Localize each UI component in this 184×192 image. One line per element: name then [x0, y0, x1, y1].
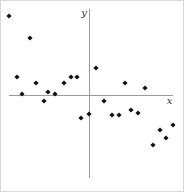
data-point: [6, 13, 11, 18]
data-point: [157, 127, 162, 132]
data-point: [33, 80, 38, 85]
data-point: [101, 98, 106, 103]
data-point: [61, 80, 66, 85]
data-point: [170, 122, 175, 127]
data-point: [27, 35, 32, 40]
data-point: [41, 98, 46, 103]
data-point: [128, 107, 133, 112]
data-point: [93, 65, 98, 70]
data-points-group: [6, 13, 175, 147]
data-point: [74, 74, 79, 79]
data-point: [122, 80, 127, 85]
data-point: [45, 89, 50, 94]
data-point: [86, 111, 91, 116]
scatter-plot-figure: x y: [0, 0, 184, 192]
data-point: [78, 115, 83, 120]
data-point: [109, 112, 114, 117]
data-point: [142, 85, 147, 90]
x-axis-label: x: [167, 95, 173, 106]
data-point: [116, 112, 121, 117]
y-axis-label: y: [80, 7, 87, 18]
scatter-plot-canvas: x y: [1, 1, 184, 192]
data-point: [135, 110, 140, 115]
data-point: [14, 74, 19, 79]
data-point: [163, 135, 168, 140]
data-point: [68, 74, 73, 79]
data-point: [150, 142, 155, 147]
